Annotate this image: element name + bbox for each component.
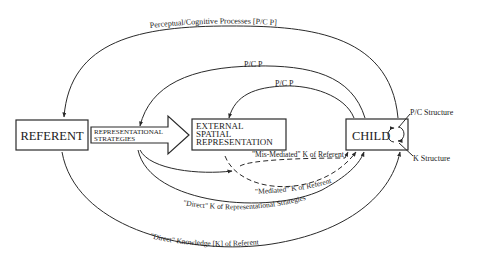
referent-label: REFERENT [20, 129, 84, 143]
middle-pcp-label: P/C P [244, 60, 263, 69]
pc-structure-label: P/C Structure [410, 108, 454, 117]
representational-strategies-arrow: REPRESENTATIONAL STRATEGIES [91, 116, 189, 154]
direct-knowledge-label: "Direct" Knowledge [K] of Referent [150, 231, 260, 248]
external-spatial-representation-node: EXTERNAL SPATIAL REPRESENTATION [192, 119, 286, 150]
arrow-label-line2: STRATEGIES [94, 135, 135, 143]
k-structure-label: K Structure [413, 154, 451, 163]
child-node: CHILD [346, 119, 408, 150]
external-label-line3: REPRESENTATION [196, 137, 273, 147]
arc-outer-pcp [64, 26, 398, 118]
arc-inner-pcp [229, 86, 354, 118]
diagram-canvas: REFERENT REPRESENTATIONAL STRATEGIES EXT… [0, 0, 482, 262]
mis-mediated-label: "Mis-Mediated" K of Referent [252, 150, 345, 159]
arc-strategies-to-representation [140, 150, 232, 172]
outer-pcp-label: Perceptual/Cognitive Processes [P/C P] [149, 16, 277, 30]
mediated-label: "Mediated" K of Referent [255, 176, 333, 196]
direct-strategies-label: "Direct" K of Representational Strategie… [183, 193, 307, 211]
inner-pcp-label: P/C P [275, 79, 294, 88]
referent-node: REFERENT [16, 120, 88, 150]
child-label: CHILD [352, 129, 390, 143]
